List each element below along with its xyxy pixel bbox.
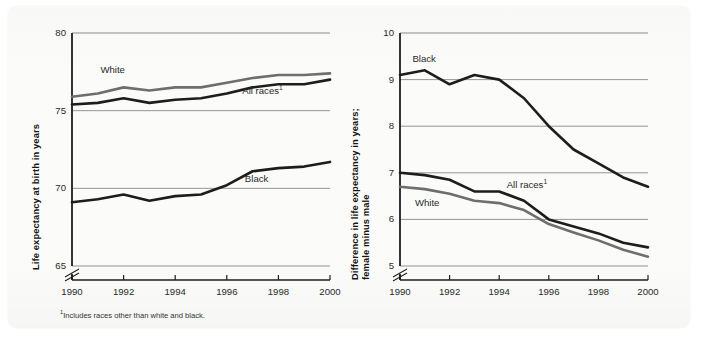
y-tick-label: 80 [38,27,66,38]
y-axis-title-left: Life expectancy at birth in years [30,124,41,270]
series-label-black: Black [412,53,435,64]
series-line-black [400,70,648,187]
x-tick-label: 1990 [378,286,422,297]
y-tick-label: 10 [366,27,394,38]
series-label-all-races: All races1 [242,84,282,96]
x-tick-label: 2000 [626,286,670,297]
x-tick-label: 1996 [527,286,571,297]
y-tick-label: 7 [366,167,394,178]
x-tick-label: 1998 [576,286,620,297]
x-tick-label: 1998 [256,286,300,297]
series-label-all-races: All races1 [507,178,547,190]
y-axis-title-right-line2: female minus male [360,108,371,280]
x-tick-label: 1996 [205,286,249,297]
x-tick-label: 2000 [308,286,352,297]
y-tick-label: 65 [38,260,66,271]
y-tick-label: 5 [366,260,394,271]
x-tick-label: 1994 [153,286,197,297]
y-axis-title-right-line1: Difference in life expectancy in years; [349,108,360,280]
x-tick-label: 1990 [50,286,94,297]
x-tick-label: 1994 [477,286,521,297]
y-axis-title-right: Difference in life expectancy in years; … [349,108,371,280]
series-label-black: Black [245,173,268,184]
x-tick-label: 1992 [428,286,472,297]
series-label-white: White [100,64,125,75]
x-tick-label: 1992 [102,286,146,297]
figure-footnote: 1Includes races other than white and bla… [60,309,205,320]
series-label-white: White [415,197,440,208]
y-tick-label: 6 [366,213,394,224]
y-tick-label: 70 [38,182,66,193]
series-label-footnote-marker: 1 [279,84,283,91]
series-label-footnote-marker: 1 [543,178,547,185]
y-tick-label: 8 [366,120,394,131]
y-tick-label: 9 [366,74,394,85]
y-tick-label: 75 [38,105,66,116]
footnote-text: Includes races other than white and blac… [63,311,205,320]
figure-page: Life expectancy at birth in years Differ… [0,0,701,341]
